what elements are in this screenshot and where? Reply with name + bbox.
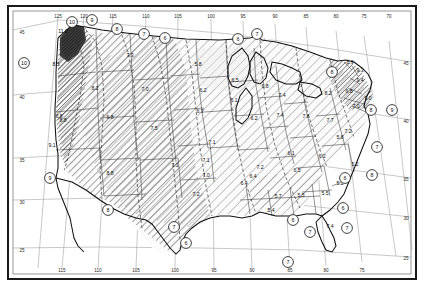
station-value: 6.2 xyxy=(318,153,325,159)
axis-tick-label: 25 xyxy=(403,256,409,261)
station-value: 7.3 xyxy=(126,52,133,58)
station-value: 7.0 xyxy=(202,172,209,178)
axis-tick-label: 40 xyxy=(403,119,409,124)
station-value: 5.5 xyxy=(297,192,304,198)
contour-label-text: 7 xyxy=(346,225,349,231)
axis-tick-label: 95 xyxy=(240,14,246,19)
station-value: 7.0 xyxy=(141,86,148,92)
axis-tick-label: 105 xyxy=(174,14,182,19)
station-value: 8.5 xyxy=(52,61,59,67)
axis-tick-top: 85 xyxy=(303,14,309,19)
contour-label: 8 xyxy=(367,170,378,181)
station-value: 8.8 xyxy=(59,117,66,123)
axis-tick-label: 85 xyxy=(303,14,309,19)
axis-tick-label: 110 xyxy=(142,14,150,19)
station-value: 9.4 xyxy=(356,77,363,83)
axis-tick-label: 105 xyxy=(132,268,140,273)
contour-label-text: 7 xyxy=(173,224,176,230)
contour-label-text: 9 xyxy=(49,175,52,181)
station-value: 5.8 xyxy=(336,134,343,140)
axis-tick-top: 100 xyxy=(207,14,215,19)
contour-label-text: 7 xyxy=(256,31,259,37)
contour-label-text: 6 xyxy=(185,240,188,246)
station-value: 7.4 xyxy=(326,223,333,229)
contour-label: 8 xyxy=(366,105,377,116)
axis-tick-top: 110 xyxy=(142,14,150,19)
station-value: 8.2 xyxy=(91,85,98,91)
axis-tick-label: 30 xyxy=(403,216,409,221)
station-value: 6.8 xyxy=(106,114,113,120)
axis-tick-label: 30 xyxy=(19,200,25,205)
axis-tick-top: 95 xyxy=(240,14,246,19)
contour-label: 6 xyxy=(233,34,244,45)
contour-label: 8 xyxy=(112,24,123,35)
contour-label: 8 xyxy=(103,205,114,216)
station-value: 7.0 xyxy=(352,103,359,109)
contour-label-text: 7 xyxy=(143,31,146,37)
station-value: 6.8 xyxy=(261,83,268,89)
axis-tick-label: 90 xyxy=(249,268,255,273)
contour-label: 7 xyxy=(305,227,316,238)
contour-label: 10 xyxy=(19,58,30,69)
axis-tick-label: 35 xyxy=(19,158,25,163)
contour-label-text: 9 xyxy=(391,107,394,113)
axis-tick-label: 100 xyxy=(171,268,179,273)
contour-label: 6 xyxy=(340,173,351,184)
axis-tick-label: 115 xyxy=(109,14,117,19)
station-value: 7.1 xyxy=(208,139,215,145)
station-value: 7.2 xyxy=(344,128,351,134)
contour-label: 6 xyxy=(288,215,299,226)
station-value: 7.5 xyxy=(150,125,157,131)
station-value: 6.1 xyxy=(230,97,237,103)
contour-label-text: 7 xyxy=(309,229,312,235)
contour-label: 7 xyxy=(169,222,180,233)
station-value: 8.2 xyxy=(324,90,331,96)
axis-tick-top: 70 xyxy=(386,14,392,19)
contour-label-text: 8 xyxy=(116,26,119,32)
station-value: 5.8 xyxy=(194,61,201,67)
contour-label-text: 9 xyxy=(91,17,94,23)
axis-tick-label: 75 xyxy=(359,268,365,273)
axis-tick-label: 75 xyxy=(361,14,367,19)
contour-label: 7 xyxy=(342,223,353,234)
station-value: 7.2 xyxy=(256,164,263,170)
axis-tick-label: 80 xyxy=(323,268,329,273)
contour-label-text: 7 xyxy=(287,259,290,265)
axis-tick-label: 115 xyxy=(58,268,66,273)
contour-label-text: 10 xyxy=(21,60,27,66)
station-value: 7.7 xyxy=(326,117,333,123)
axis-tick-label: 70 xyxy=(386,14,392,19)
station-value: 6.5 xyxy=(293,167,300,173)
station-value: 7.1 xyxy=(202,157,209,163)
contour-label: 7 xyxy=(283,257,294,268)
contour-label: 9 xyxy=(45,173,56,184)
station-value: 7.1 xyxy=(171,162,178,168)
station-value: 9.0 xyxy=(364,95,371,101)
station-value: 11.0 xyxy=(58,28,68,34)
station-value: 8.9 xyxy=(346,59,353,65)
station-value: 7.4 xyxy=(278,92,285,98)
contour-label-text: 8 xyxy=(107,207,110,213)
contour-label-text: 8 xyxy=(370,107,373,113)
axis-tick-label: 100 xyxy=(207,14,215,19)
station-value: 9.1 xyxy=(48,142,55,148)
contour-label: 6 xyxy=(338,203,349,214)
contour-map-figure: 125120115110105100959085807570 115110105… xyxy=(0,0,424,285)
contour-label: 8 xyxy=(327,67,338,78)
contour-label: 6 xyxy=(160,33,171,44)
contour-label: 7 xyxy=(139,29,150,40)
axis-tick-label: 45 xyxy=(403,61,409,66)
axis-tick-top: 90 xyxy=(272,14,278,19)
axis-tick-label: 125 xyxy=(54,14,62,19)
contour-label: 9 xyxy=(387,105,398,116)
axis-tick-label: 95 xyxy=(211,268,217,273)
station-value: 6.2 xyxy=(199,87,206,93)
station-value: 8.8 xyxy=(106,170,113,176)
contour-label-text: 6 xyxy=(344,175,347,181)
contour-label-text: 7 xyxy=(376,144,379,150)
axis-tick-label: 90 xyxy=(272,14,278,19)
axis-tick-label: 40 xyxy=(19,95,25,100)
map-canvas: 125120115110105100959085807570 115110105… xyxy=(0,0,424,285)
station-value: 6.8 xyxy=(345,88,352,94)
axis-tick-label: 25 xyxy=(19,248,25,253)
